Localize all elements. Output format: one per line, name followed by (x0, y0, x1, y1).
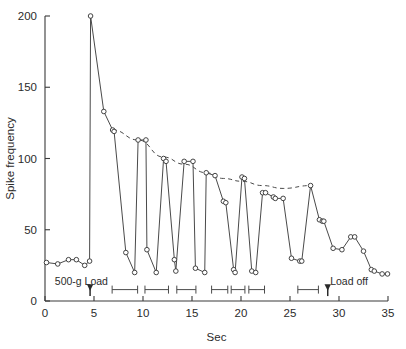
x-tick-label: 35 (382, 307, 395, 319)
interval-bracket (112, 286, 137, 294)
data-point (253, 270, 258, 275)
data-point (136, 138, 141, 143)
annotation-label: Load off (330, 275, 368, 287)
data-point (299, 259, 304, 264)
data-point (273, 196, 278, 201)
x-tick-label: 15 (186, 307, 199, 319)
interval-bracket (249, 286, 265, 294)
data-point (331, 246, 336, 251)
interval-bracket (145, 286, 169, 294)
data-point (385, 272, 390, 277)
data-point (281, 196, 286, 201)
x-tick-label: 30 (333, 307, 346, 319)
annotation-label: 500-g Load (55, 275, 108, 287)
data-point (55, 262, 60, 267)
y-axis-title: Spike frequency (4, 117, 16, 200)
data-point (204, 170, 209, 175)
annotation-load-off: Load off (325, 275, 368, 296)
data-point (164, 159, 169, 164)
data-point (380, 272, 385, 277)
y-tick-label: 150 (18, 81, 37, 93)
data-point (352, 235, 357, 240)
data-point (308, 183, 313, 188)
data-point (233, 270, 238, 275)
data-point (145, 247, 150, 252)
data-point (224, 200, 229, 205)
data-point (112, 129, 117, 134)
annotation-arrow-head (325, 284, 331, 291)
y-axis-tick-labels: 050100150200 (18, 10, 37, 307)
data-point (174, 269, 179, 274)
annotation-arrow-head (87, 284, 93, 291)
x-axis-title: Sec (207, 331, 227, 343)
data-point (124, 250, 129, 255)
data-point (340, 247, 345, 252)
x-tick-label: 0 (42, 307, 48, 319)
interval-bracket (298, 286, 319, 294)
data-point (213, 173, 218, 178)
y-tick-label: 200 (18, 10, 37, 22)
x-axis-tick-labels: 05101520253035 (42, 307, 395, 319)
data-point (44, 260, 49, 265)
x-tick-label: 20 (235, 307, 248, 319)
data-point (66, 257, 71, 262)
data-point (144, 138, 149, 143)
data-point (102, 109, 107, 114)
annotation-load-on: 500-g Load (55, 275, 108, 296)
data-point (74, 257, 79, 262)
data-point (289, 256, 294, 261)
spike-frequency-chart: 050100150200 05101520253035 500-g LoadLo… (0, 0, 406, 349)
interval-bracket (212, 286, 228, 294)
data-point (87, 259, 92, 264)
x-tick-label: 10 (137, 307, 150, 319)
data-point (202, 270, 207, 275)
data-point (88, 14, 93, 19)
data-point (263, 190, 268, 195)
data-point (322, 219, 327, 224)
data-point (193, 266, 198, 271)
x-tick-label: 5 (91, 307, 97, 319)
data-point (191, 159, 196, 164)
x-axis-ticks (45, 296, 388, 301)
figure-container: 050100150200 05101520253035 500-g LoadLo… (0, 0, 406, 349)
data-point (182, 159, 187, 164)
data-point (242, 176, 247, 181)
y-tick-label: 100 (18, 153, 37, 165)
data-group (44, 14, 390, 277)
interval-bracket (177, 286, 196, 294)
spike-frequency-trace (46, 16, 387, 274)
interval-bracket (231, 286, 245, 294)
data-point (154, 270, 159, 275)
adaptation-envelope-curve (113, 130, 311, 188)
interval-brackets (112, 286, 318, 294)
data-point (82, 263, 87, 268)
y-tick-label: 50 (24, 224, 37, 236)
y-tick-label: 0 (31, 295, 37, 307)
data-point (361, 249, 366, 254)
data-point (372, 269, 377, 274)
y-axis-ticks (45, 16, 50, 301)
data-point (132, 270, 137, 275)
data-point (172, 257, 177, 262)
x-tick-label: 25 (284, 307, 297, 319)
